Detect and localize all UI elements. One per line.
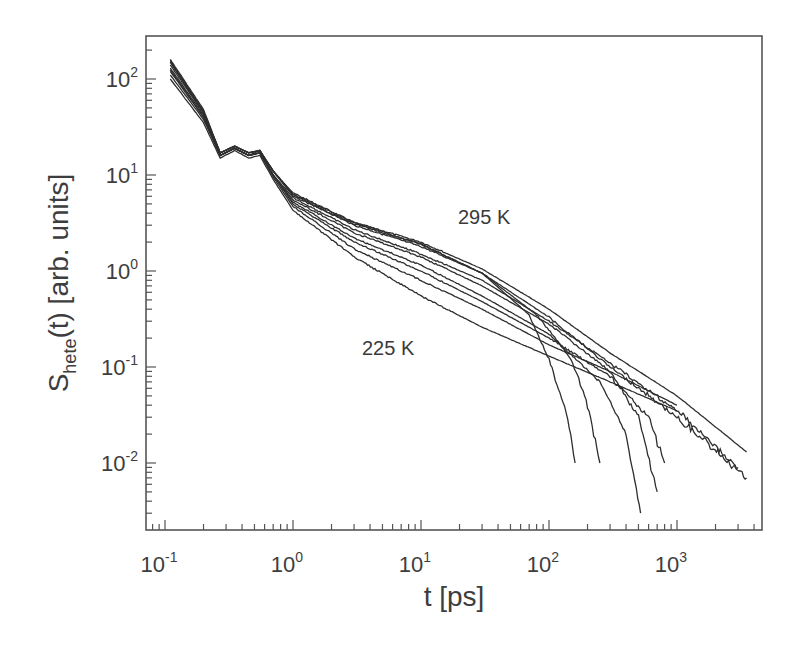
y-axis-title: Shete(t) [arb. units]	[43, 174, 80, 393]
annotation-225k: 225 K	[362, 337, 415, 359]
y-tick-labels: 10210110010-110-2	[101, 64, 138, 476]
y-tick-label-1: 101	[106, 160, 138, 188]
y-tick-label-0: 102	[106, 64, 138, 92]
x-tick-label-1: 100	[271, 549, 303, 577]
series-curve-4	[170, 62, 600, 463]
x-tick-label-3: 102	[527, 549, 559, 577]
series-curve-7	[170, 71, 640, 513]
series-curve-8	[170, 70, 664, 463]
x-tick-label-4: 103	[655, 549, 687, 577]
plot-frame	[146, 36, 762, 530]
chart: 10-1100101102103 10210110010-110-2 t [ps…	[0, 0, 797, 646]
series-curve-1	[170, 62, 746, 452]
svg-text:Shete(t) [arb. units]: Shete(t) [arb. units]	[43, 174, 80, 393]
y-tick-label-3: 10-1	[101, 352, 138, 380]
y-axis-title-main: S	[43, 374, 74, 393]
series-curve-6	[170, 68, 657, 492]
annotation-295k: 295 K	[458, 206, 511, 228]
series-curve-9	[170, 75, 677, 405]
y-axis-title-rest: (t) [arb. units]	[43, 174, 74, 339]
x-tick-label-2: 101	[399, 549, 431, 577]
series-curve-2	[170, 59, 746, 479]
series-curve-5	[170, 61, 575, 463]
x-tick-label-0: 10-1	[141, 549, 178, 577]
y-tick-label-4: 10-2	[101, 448, 138, 476]
y-axis-title-sub: hete	[60, 339, 80, 374]
data-curves	[170, 59, 746, 513]
x-tick-labels: 10-1100101102103	[141, 549, 688, 577]
x-axis-title: t [ps]	[424, 581, 485, 612]
series-curve-3	[170, 65, 738, 469]
y-tick-label-2: 100	[106, 256, 138, 284]
